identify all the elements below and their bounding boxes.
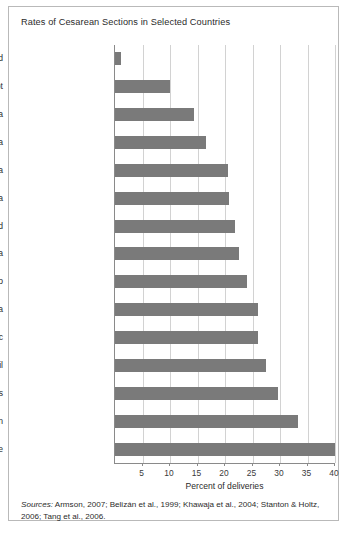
category-label-brazil: Brazil <box>0 359 3 372</box>
bar-canada <box>115 247 239 260</box>
bar-england <box>115 220 235 233</box>
bar-row: England <box>115 212 335 240</box>
category-label-chad: Chad <box>0 52 3 65</box>
bar-colombia <box>115 136 206 149</box>
category-label-egypt: Egypt <box>0 80 3 93</box>
category-label-united-states: United States <box>0 387 3 400</box>
category-label-costa-rica: Costa Rica <box>0 164 3 177</box>
category-label-venezuela: Venezuela <box>0 192 3 205</box>
tick-mark-15 <box>197 463 198 466</box>
bar-dominican-republic <box>115 331 258 344</box>
bar-chile <box>115 443 335 456</box>
x-axis-label: Percent of deliveries <box>114 481 335 491</box>
bar-mexico <box>115 275 247 288</box>
bar-row: United States <box>115 379 335 407</box>
bar-row: Dominican Republic <box>115 324 335 352</box>
category-label-england: England <box>0 220 3 233</box>
bar-row: Chile <box>115 435 335 463</box>
category-label-chile: Chile <box>0 443 3 456</box>
category-label-canada: Canada <box>0 247 3 260</box>
tick-mark-30 <box>279 463 280 466</box>
bar-row: Chad <box>115 45 335 73</box>
tick-label-35: 35 <box>302 468 311 478</box>
bar-row: Venezuela <box>115 184 335 212</box>
tick-label-5: 5 <box>139 468 144 478</box>
tick-mark-40 <box>334 463 335 466</box>
bar-row: Colombia <box>115 129 335 157</box>
bar-row: Taiwan <box>115 407 335 435</box>
category-label-taiwan: Taiwan <box>0 415 3 428</box>
tick-label-10: 10 <box>164 468 173 478</box>
tick-label-15: 15 <box>192 468 201 478</box>
tick-label-20: 20 <box>219 468 228 478</box>
tick-mark-20 <box>224 463 225 466</box>
category-label-syria: Syria <box>0 108 3 121</box>
gridline-40 <box>335 45 336 463</box>
sources-note: Sources: Armson, 2007; Belizán et al., 1… <box>21 499 327 522</box>
bar-row: China <box>115 296 335 324</box>
bar-china <box>115 303 258 316</box>
tick-mark-35 <box>307 463 308 466</box>
bar-row: Canada <box>115 240 335 268</box>
figure-container: Rates of Cesarean Sections in Selected C… <box>8 6 339 521</box>
sources-label: Sources: <box>21 500 53 509</box>
bar-united-states <box>115 387 278 400</box>
bar-brazil <box>115 359 266 372</box>
bar-chad <box>115 52 121 65</box>
bar-syria <box>115 108 194 121</box>
tick-mark-25 <box>252 463 253 466</box>
bar-venezuela <box>115 192 229 205</box>
category-label-china: China <box>0 303 3 316</box>
sources-text: Armson, 2007; Belizán et al., 1999; Khaw… <box>21 500 319 521</box>
tick-mark-5 <box>142 463 143 466</box>
bar-costa-rica <box>115 164 228 177</box>
category-label-dominican-republic: Dominican Republic <box>0 331 3 344</box>
bar-row: Mexico <box>115 268 335 296</box>
bar-row: Egypt <box>115 73 335 101</box>
tick-mark-10 <box>169 463 170 466</box>
tick-label-40: 40 <box>329 468 338 478</box>
bar-row: Brazil <box>115 352 335 380</box>
chart-title: Rates of Cesarean Sections in Selected C… <box>21 17 230 27</box>
bar-taiwan <box>115 415 298 428</box>
category-label-mexico: Mexico <box>0 275 3 288</box>
tick-label-30: 30 <box>274 468 283 478</box>
plot-area: ChadEgyptSyriaColombiaCosta RicaVenezuel… <box>114 45 335 463</box>
bar-egypt <box>115 80 170 93</box>
tick-label-25: 25 <box>247 468 256 478</box>
bar-row: Costa Rica <box>115 156 335 184</box>
bar-row: Syria <box>115 101 335 129</box>
category-label-colombia: Colombia <box>0 136 3 149</box>
